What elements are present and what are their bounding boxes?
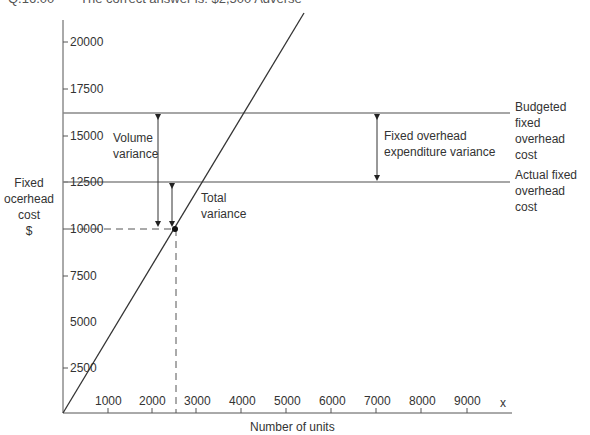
x-tick-label: 2000 bbox=[139, 394, 166, 408]
y-tick-label: 10000 bbox=[70, 222, 103, 236]
budgeted-label-line: Budgeted fixed bbox=[515, 99, 590, 131]
y-tick-label: 20000 bbox=[70, 35, 103, 49]
expenditure-label: Fixed overhead expenditure variance bbox=[384, 128, 495, 160]
actual-label-line: Actual fixed bbox=[515, 167, 590, 183]
absorbed-line bbox=[63, 13, 304, 413]
total-label-line: variance bbox=[201, 206, 246, 222]
y-tick-label: 2500 bbox=[70, 361, 97, 375]
x-ticks bbox=[108, 408, 467, 413]
volume-label-line: Volume bbox=[113, 130, 158, 146]
x-axis-end-label: x bbox=[500, 396, 506, 410]
budgeted-label-line: overhead cost bbox=[515, 131, 590, 163]
y-tick-label: 5000 bbox=[70, 315, 97, 329]
volume-label-line: variance bbox=[113, 146, 158, 162]
y-title-line: ocerhead bbox=[0, 191, 58, 207]
x-tick-label: 9000 bbox=[454, 394, 481, 408]
expenditure-label-line: expenditure variance bbox=[384, 144, 495, 160]
x-tick-label: 5000 bbox=[274, 394, 301, 408]
y-tick-label: 15000 bbox=[70, 129, 103, 143]
x-axis-title: Number of units bbox=[250, 419, 335, 435]
x-tick-label: 8000 bbox=[409, 394, 436, 408]
data-point bbox=[172, 226, 178, 232]
actual-label: Actual fixed overhead cost bbox=[515, 167, 590, 215]
volume-label: Volume variance bbox=[113, 130, 158, 162]
y-title-line: cost bbox=[0, 207, 58, 223]
y-tick-label: 17500 bbox=[70, 82, 103, 96]
x-tick-label: 4000 bbox=[229, 394, 256, 408]
x-tick-label: 1000 bbox=[95, 394, 122, 408]
y-title-line: Fixed bbox=[0, 175, 58, 191]
total-label-line: Total bbox=[201, 190, 246, 206]
y-tick-label: 12500 bbox=[70, 175, 103, 189]
total-label: Total variance bbox=[201, 190, 246, 222]
actual-label-line: overhead cost bbox=[515, 183, 590, 215]
y-ticks bbox=[63, 42, 68, 368]
budgeted-label: Budgeted fixed overhead cost bbox=[515, 99, 590, 163]
y-title-line: $ bbox=[0, 223, 58, 239]
x-tick-label: 7000 bbox=[364, 394, 391, 408]
expenditure-label-line: Fixed overhead bbox=[384, 128, 495, 144]
x-tick-label: 6000 bbox=[319, 394, 346, 408]
y-tick-label: 7500 bbox=[70, 269, 97, 283]
y-axis-title: Fixed ocerhead cost $ bbox=[0, 175, 58, 239]
x-tick-label: 3000 bbox=[184, 394, 211, 408]
